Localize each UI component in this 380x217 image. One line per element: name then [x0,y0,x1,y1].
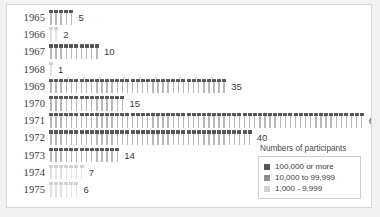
person-icon [141,79,145,94]
person-icon [69,10,73,25]
person-icon [309,113,313,128]
person-icon [151,79,155,94]
person-icon [95,113,99,128]
person-icon [90,79,94,94]
row-year-label: 1968 [7,64,49,75]
row-value-label: 35 [231,79,242,94]
person-icon [74,79,78,94]
person-icon [74,165,78,180]
person-icon [120,79,124,94]
legend-title: Numbers of participants [260,144,361,153]
person-icon [243,113,247,128]
person-icon [59,148,63,163]
person-icon [237,113,241,128]
person-icon [105,148,109,163]
person-icon [54,113,58,128]
person-icon [59,10,63,25]
person-icon [263,113,267,128]
person-icon [115,96,119,111]
person-icon [294,113,298,128]
person-icon [69,44,73,59]
person-icon [268,113,272,128]
person-icon [74,130,78,145]
person-icon [202,79,206,94]
person-icon [90,44,94,59]
person-icon [49,62,53,77]
chart-row: 197240 [7,129,267,146]
chart-row: 19662 [7,26,68,43]
person-icon [217,113,221,128]
person-icon [166,130,170,145]
person-icon [146,113,150,128]
person-icon [166,113,170,128]
person-icon [110,96,114,111]
person-icon [74,96,78,111]
chart-row: 197314 [7,147,135,164]
person-icon [49,27,53,42]
person-icon [80,79,84,94]
person-icon [197,79,201,94]
person-icon [115,148,119,163]
row-year-label: 1969 [7,81,49,92]
person-icon [59,165,63,180]
person-icon [54,96,58,111]
person-icon [156,79,160,94]
person-icon [74,113,78,128]
person-icon [227,113,231,128]
person-icon [95,148,99,163]
person-icon [278,113,282,128]
person-icon [80,113,84,128]
person-icon [69,113,73,128]
person-icon [304,113,308,128]
person-icon [181,113,185,128]
person-icon [100,113,104,128]
legend-swatch-icon [264,186,270,192]
person-icon [222,130,226,145]
chart-row: 197162 [7,112,372,129]
legend-item: 1,000 - 9,999 [264,183,355,194]
person-icon [59,79,63,94]
legend-item: 10,000 to 99,999 [264,172,355,183]
person-icon [49,44,53,59]
person-icon [339,113,343,128]
person-icon [232,113,236,128]
row-year-label: 1967 [7,46,49,57]
person-icon [202,113,206,128]
pictogram-bar [49,44,100,59]
person-icon [69,182,73,197]
person-icon [161,79,165,94]
person-icon [115,79,119,94]
person-icon [64,148,68,163]
person-icon [80,165,84,180]
person-icon [131,79,135,94]
person-icon [69,130,73,145]
person-icon [69,148,73,163]
person-icon [69,165,73,180]
person-icon [64,96,68,111]
person-icon [125,130,129,145]
person-icon [49,79,53,94]
pictogram-bar [49,10,74,25]
person-icon [74,44,78,59]
row-value-label: 2 [63,27,68,42]
row-value-label: 10 [104,44,115,59]
person-icon [59,44,63,59]
pictogram-bar [49,165,85,180]
pictogram-bar [49,79,227,94]
person-icon [141,130,145,145]
person-icon [299,113,303,128]
chart-row: 19681 [7,61,63,78]
person-icon [80,130,84,145]
person-icon [207,113,211,128]
person-icon [105,96,109,111]
pictogram-bar [49,62,54,77]
person-icon [207,130,211,145]
person-icon [141,113,145,128]
person-icon [243,130,247,145]
person-icon [49,130,53,145]
person-icon [54,44,58,59]
legend-item: 100,000 or more [264,161,355,172]
person-icon [105,113,109,128]
person-icon [85,130,89,145]
person-icon [227,130,231,145]
